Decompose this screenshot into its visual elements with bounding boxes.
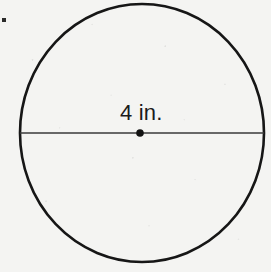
circle-drawing — [0, 0, 271, 272]
center-point-dot — [136, 129, 144, 137]
diameter-measurement-label: 4 in. — [120, 102, 163, 124]
circle-diagram-figure: 4 in. — [0, 0, 271, 272]
